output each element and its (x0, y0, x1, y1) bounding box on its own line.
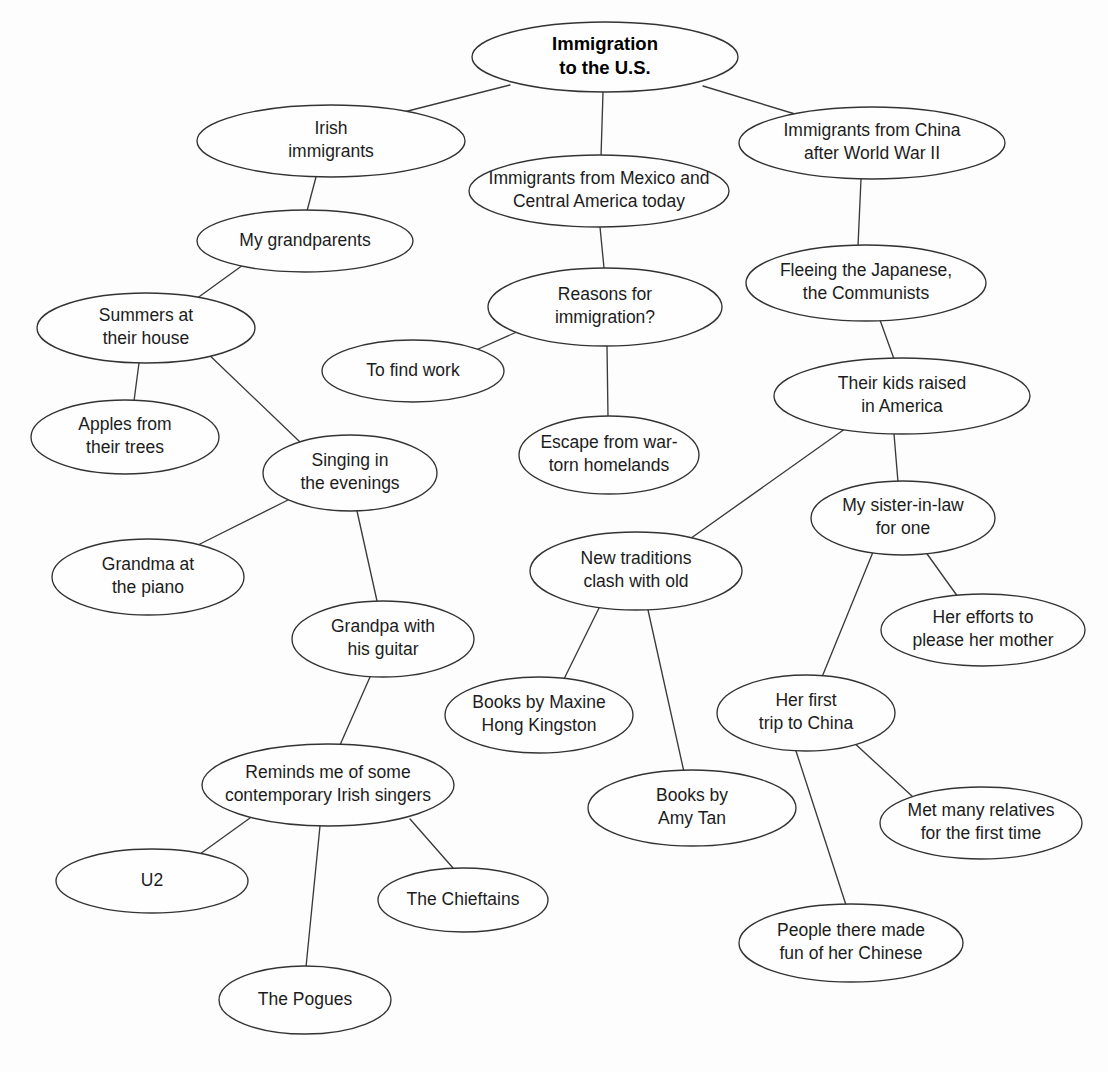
node-label-new-traditions: clash with old (583, 571, 688, 591)
node-reasons[interactable]: Reasons forimmigration? (488, 268, 722, 346)
node-label-first-trip: trip to China (759, 713, 854, 733)
node-label-root: to the U.S. (559, 57, 650, 78)
node-label-grandparents: My grandparents (239, 230, 371, 250)
mind-map-svg: Immigrationto the U.S.IrishimmigrantsMy … (0, 0, 1108, 1072)
node-amy-tan[interactable]: Books byAmy Tan (588, 770, 796, 846)
edge-fleeing-to-kids-raised (880, 320, 894, 359)
edge-irish-to-grandparents (307, 177, 316, 211)
node-label-amy-tan: Amy Tan (658, 808, 726, 828)
node-label-apples: their trees (86, 437, 164, 457)
node-her-efforts[interactable]: Her efforts toplease her mother (881, 594, 1085, 666)
edge-irish-singers-to-pogues (306, 826, 320, 967)
node-maxine[interactable]: Books by MaxineHong Kingston (445, 677, 633, 753)
edge-first-trip-to-met-relatives (852, 741, 913, 797)
node-label-mexico: Immigrants from Mexico and (489, 168, 710, 188)
node-grandma-piano[interactable]: Grandma atthe piano (52, 539, 244, 615)
node-sister-in-law[interactable]: My sister-in-lawfor one (811, 481, 995, 555)
node-find-work[interactable]: To find work (322, 340, 504, 402)
node-escape-war[interactable]: Escape from war-torn homelands (519, 416, 699, 494)
node-label-singing: Singing in (312, 450, 389, 470)
node-label-amy-tan: Books by (656, 785, 728, 805)
node-chieftains[interactable]: The Chieftains (378, 868, 548, 932)
node-label-grandma-piano: the piano (112, 577, 184, 597)
edge-china-to-fleeing (858, 179, 861, 246)
node-label-met-relatives: Met many relatives (908, 800, 1055, 820)
node-label-her-efforts: Her efforts to (933, 607, 1034, 627)
node-label-apples: Apples from (78, 414, 171, 434)
node-label-summers: their house (103, 328, 190, 348)
node-label-fleeing: Fleeing the Japanese, (780, 260, 952, 280)
node-label-pogues: The Pogues (258, 989, 353, 1009)
node-pogues[interactable]: The Pogues (219, 966, 391, 1034)
node-label-root: Immigration (552, 33, 658, 54)
node-label-reasons: Reasons for (558, 284, 653, 304)
node-label-her-efforts: please her mother (912, 630, 1053, 650)
node-apples[interactable]: Apples fromtheir trees (31, 400, 219, 474)
node-root[interactable]: Immigrationto the U.S. (472, 22, 738, 92)
node-layer: Immigrationto the U.S.IrishimmigrantsMy … (31, 22, 1085, 1034)
node-irish-singers[interactable]: Reminds me of somecontemporary Irish sin… (202, 744, 454, 826)
edge-summers-to-apples (134, 363, 139, 401)
edge-reasons-to-escape-war (607, 346, 608, 417)
node-label-grandpa-guitar: his guitar (347, 639, 418, 659)
edge-first-trip-to-made-fun (796, 751, 846, 905)
node-label-reasons: immigration? (555, 307, 655, 327)
node-label-chieftains: The Chieftains (407, 889, 520, 909)
node-mexico[interactable]: Immigrants from Mexico andCentral Americ… (469, 155, 729, 227)
node-made-fun[interactable]: People there madefun of her Chinese (739, 904, 963, 982)
node-label-sister-in-law: for one (876, 518, 930, 538)
node-label-made-fun: People there made (777, 920, 925, 940)
node-label-met-relatives: for the first time (921, 823, 1042, 843)
node-label-mexico: Central America today (513, 191, 685, 211)
node-label-made-fun: fun of her Chinese (779, 943, 922, 963)
node-irish[interactable]: Irishimmigrants (197, 105, 465, 177)
node-singing[interactable]: Singing inthe evenings (263, 435, 437, 511)
edge-root-to-mexico (601, 92, 603, 157)
node-first-trip[interactable]: Her firsttrip to China (717, 675, 895, 751)
node-china[interactable]: Immigrants from Chinaafter World War II (739, 107, 1005, 179)
edge-singing-to-grandma-piano (196, 500, 288, 546)
node-label-find-work: To find work (366, 360, 460, 380)
node-label-kids-raised: Their kids raised (838, 373, 966, 393)
node-label-new-traditions: New traditions (581, 548, 692, 568)
node-label-singing: the evenings (300, 473, 399, 493)
edge-root-to-china (703, 86, 795, 114)
node-label-china: Immigrants from China (784, 120, 961, 140)
node-grandpa-guitar[interactable]: Grandpa withhis guitar (292, 601, 474, 677)
edge-root-to-irish (400, 85, 510, 113)
node-label-first-trip: Her first (775, 690, 836, 710)
edge-irish-singers-to-chieftains (410, 819, 453, 868)
edge-kids-raised-to-sister-in-law (894, 434, 898, 482)
node-label-escape-war: torn homelands (549, 455, 670, 475)
edge-grandpa-guitar-to-irish-singers (340, 677, 370, 745)
node-grandparents[interactable]: My grandparents (197, 210, 413, 272)
node-label-summers: Summers at (99, 305, 193, 325)
node-label-sister-in-law: My sister-in-law (842, 495, 964, 515)
node-summers[interactable]: Summers attheir house (37, 293, 255, 363)
node-label-kids-raised: in America (861, 396, 943, 416)
edge-sister-in-law-to-first-trip (822, 552, 873, 677)
node-label-fleeing: the Communists (803, 283, 930, 303)
node-new-traditions[interactable]: New traditionsclash with old (530, 532, 742, 610)
node-label-u2: U2 (141, 870, 163, 890)
node-kids-raised[interactable]: Their kids raisedin America (774, 358, 1030, 434)
edge-sister-in-law-to-her-efforts (925, 551, 958, 597)
node-u2[interactable]: U2 (56, 849, 248, 913)
node-fleeing[interactable]: Fleeing the Japanese,the Communists (746, 245, 986, 321)
edge-mexico-to-reasons (600, 227, 604, 268)
node-label-irish-singers: Reminds me of some (245, 762, 410, 782)
node-met-relatives[interactable]: Met many relativesfor the first time (880, 787, 1082, 859)
mind-map-canvas: Immigrationto the U.S.IrishimmigrantsMy … (0, 0, 1108, 1072)
node-label-maxine: Books by Maxine (472, 692, 605, 712)
edge-grandparents-to-summers (196, 265, 243, 299)
node-label-china: after World War II (804, 143, 940, 163)
edge-irish-singers-to-u2 (200, 818, 250, 854)
edge-singing-to-grandpa-guitar (357, 511, 377, 601)
node-label-grandma-piano: Grandma at (102, 554, 195, 574)
edge-new-traditions-to-maxine (563, 606, 600, 681)
node-label-irish: Irish (314, 118, 347, 138)
node-label-irish-singers: contemporary Irish singers (225, 785, 431, 805)
node-label-grandpa-guitar: Grandpa with (331, 616, 435, 636)
node-label-escape-war: Escape from war- (540, 432, 677, 452)
node-label-irish: immigrants (288, 141, 374, 161)
